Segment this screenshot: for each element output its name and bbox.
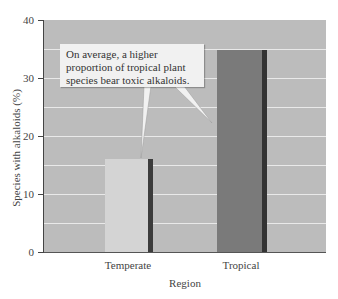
annotation-callout: On average, a higher proportion of tropi… — [60, 44, 204, 87]
